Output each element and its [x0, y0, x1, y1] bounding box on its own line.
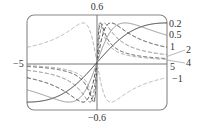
- series-label-4: 4: [186, 57, 191, 68]
- series-label-5: 5: [170, 61, 175, 72]
- series-label-minus-1: −1: [172, 73, 183, 84]
- y-top-tick-label: 0.6: [91, 1, 104, 12]
- series-label-0.5: 0.5: [169, 29, 182, 40]
- chart: 0.6 −0.6 −5 0.2 0.5 1 2 4 5 −1: [0, 0, 197, 129]
- series-label-2: 2: [186, 44, 191, 55]
- y-bottom-tick-label: −0.6: [88, 112, 106, 123]
- series-label-0.2: 0.2: [169, 18, 182, 29]
- x-left-tick-label: −5: [13, 58, 24, 69]
- series-label-1: 1: [170, 41, 175, 52]
